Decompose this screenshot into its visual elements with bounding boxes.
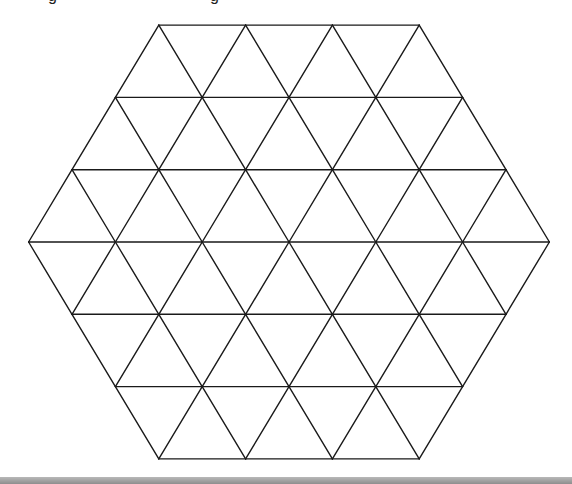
grid-edge — [159, 314, 202, 386]
grid-edge — [289, 242, 332, 314]
grid-edge — [115, 314, 158, 386]
grid-edge — [376, 170, 419, 242]
grid-edge — [419, 314, 462, 386]
grid-edge — [463, 314, 506, 386]
grid-edge — [289, 97, 332, 169]
grid-edge — [463, 97, 506, 169]
grid-edge — [332, 25, 375, 97]
grid-edge — [72, 242, 115, 314]
grid-edge — [506, 242, 549, 314]
grid-edge — [115, 25, 158, 97]
grid-edge — [332, 170, 375, 242]
grid-edge — [506, 170, 549, 242]
grid-edge — [289, 314, 332, 386]
grid-edge — [419, 25, 462, 97]
grid-edge — [115, 97, 158, 169]
grid-edge — [72, 314, 115, 386]
grid-edge — [29, 170, 72, 242]
grid-edge — [202, 97, 245, 169]
grid-edge — [159, 25, 202, 97]
grid-edge — [72, 170, 115, 242]
grid-edge — [246, 242, 289, 314]
triangular-hexagon-grid — [0, 0, 572, 484]
grid-edge — [29, 242, 72, 314]
grid-edge — [289, 25, 332, 97]
grid-edge — [332, 242, 375, 314]
grid-edge — [202, 25, 245, 97]
grid-edge — [332, 97, 375, 169]
grid-edge — [246, 314, 289, 386]
bottom-gray-bar — [0, 477, 572, 484]
grid-edge — [115, 242, 158, 314]
grid-edge — [202, 170, 245, 242]
grid-edge — [463, 170, 506, 242]
grid-edge — [159, 242, 202, 314]
grid-edge — [72, 97, 115, 169]
grid-edge — [246, 97, 289, 169]
grid-edge — [115, 170, 158, 242]
grid-edge — [376, 242, 419, 314]
grid-edge — [463, 242, 506, 314]
grid-edge — [202, 314, 245, 386]
grid-edge — [376, 25, 419, 97]
grid-edge — [332, 314, 375, 386]
grid-edge — [419, 170, 462, 242]
grid-edge — [246, 387, 289, 459]
grid-edge — [159, 387, 202, 459]
grid-edge — [376, 387, 419, 459]
grid-edge — [202, 387, 245, 459]
grid-edge — [159, 97, 202, 169]
grid-edge — [115, 387, 158, 459]
grid-edge — [246, 170, 289, 242]
grid-edge — [419, 242, 462, 314]
grid-edge — [419, 387, 462, 459]
grid-edge — [376, 97, 419, 169]
grid-edge — [246, 25, 289, 97]
grid-edge — [376, 314, 419, 386]
grid-edge — [289, 170, 332, 242]
grid-edge — [159, 170, 202, 242]
grid-edge — [419, 97, 462, 169]
grid-edge — [202, 242, 245, 314]
grid-edge — [289, 387, 332, 459]
grid-edge — [332, 387, 375, 459]
